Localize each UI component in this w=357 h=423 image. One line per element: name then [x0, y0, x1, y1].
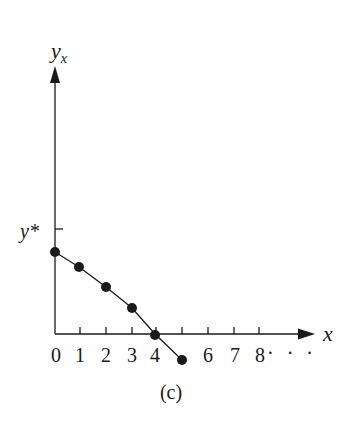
- x-axis: x 0 1 2 3 4 6 7 8 · · ·: [51, 321, 333, 366]
- x-axis-label: x: [322, 321, 333, 346]
- data-point: [127, 303, 137, 313]
- x-tick-label: 6: [203, 344, 213, 366]
- x-tick-label: 3: [127, 344, 137, 366]
- x-tick-label: 1: [75, 344, 85, 366]
- data-points: [50, 247, 187, 365]
- x-axis-arrow-icon: [298, 329, 315, 340]
- data-point: [101, 282, 111, 292]
- data-point: [50, 247, 60, 257]
- data-point: [150, 330, 160, 340]
- x-tick-label: 0: [51, 344, 61, 366]
- x-ticks: [80, 327, 259, 334]
- data-point: [74, 262, 84, 272]
- x-axis-ellipsis: · · ·: [267, 342, 317, 364]
- x-tick-label: 7: [230, 344, 240, 366]
- y-axis: yx y*: [18, 38, 68, 334]
- y-axis-label: yx: [49, 38, 68, 66]
- x-tick-label: 8: [255, 344, 265, 366]
- chart-canvas: yx y* x 0 1 2 3 4 6 7 8: [0, 0, 357, 423]
- data-point: [177, 355, 187, 365]
- y-axis-arrow-icon: [50, 66, 60, 83]
- figure-caption: (c): [160, 381, 182, 404]
- x-tick-labels: 0 1 2 3 4 6 7 8: [51, 344, 265, 366]
- x-tick-label: 4: [150, 344, 160, 366]
- x-tick-label: 2: [101, 344, 111, 366]
- y-star-label: y*: [18, 220, 39, 243]
